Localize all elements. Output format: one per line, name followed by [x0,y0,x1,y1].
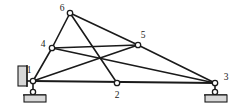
truss-members [33,13,215,83]
truss-joint-4 [49,45,54,50]
truss-member-5-3 [138,45,215,83]
node-label-5: 5 [141,30,146,40]
ground-hatch-right [205,95,227,102]
truss-member-4-5 [52,45,138,48]
truss-diagram-canvas: 123456 [0,0,237,111]
node-label-2: 2 [115,90,120,100]
truss-node-labels: 123456 [27,3,229,100]
truss-joint-3 [212,80,217,85]
node-label-6: 6 [60,3,65,13]
truss-member-1-3 [33,81,215,83]
truss-joint-1 [30,78,35,83]
pin-bearing-left [30,89,35,94]
truss-diagram-figure: 123456 [0,0,237,111]
truss-joint-5 [135,42,140,47]
node-label-1: 1 [27,65,32,75]
node-label-3: 3 [224,72,229,82]
pin-bearing-right [212,89,217,94]
node-label-4: 4 [41,39,46,49]
truss-joint-6 [67,10,72,15]
ground-hatch-left [24,95,46,102]
truss-joint-2 [114,80,119,85]
truss-member-4-6 [52,13,70,48]
